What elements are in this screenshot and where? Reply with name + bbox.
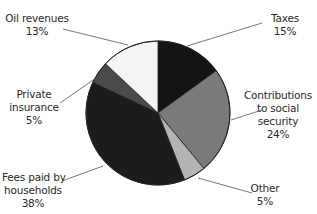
label-pct: 5%: [250, 195, 280, 208]
label-pct: 13%: [4, 25, 70, 38]
label-text: Private: [6, 88, 62, 101]
label-text: Taxes: [260, 12, 310, 25]
label-text: insurance: [6, 101, 62, 114]
label-pct: 5%: [6, 114, 62, 127]
leader-oil: [63, 29, 128, 45]
leader-taxes: [187, 23, 262, 46]
label-fees-paid: Fees paid by households 38%: [2, 171, 64, 210]
label-text: Oil revenues: [4, 12, 70, 25]
label-text: Fees paid by: [2, 171, 64, 184]
label-pct: 15%: [260, 25, 310, 38]
label-text: security: [240, 115, 316, 128]
label-taxes: Taxes 15%: [260, 12, 310, 38]
label-text: households: [2, 184, 64, 197]
label-text: Other: [250, 182, 280, 195]
label-oil-revenues: Oil revenues 13%: [4, 12, 70, 38]
label-contributions: Contributions to social security 24%: [240, 89, 316, 141]
label-pct: 38%: [2, 197, 64, 210]
leader-fees: [62, 166, 103, 181]
pie-slices: [86, 41, 230, 185]
leader-other: [198, 178, 252, 193]
label-text: to social: [240, 102, 316, 115]
label-text: Contributions: [240, 89, 316, 102]
label-other: Other 5%: [250, 182, 280, 208]
label-private-insurance: Private insurance 5%: [6, 88, 62, 127]
label-pct: 24%: [240, 128, 316, 141]
